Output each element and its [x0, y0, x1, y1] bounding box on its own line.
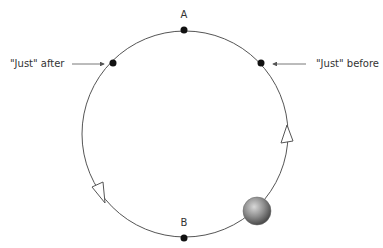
direction-arrow-left-icon: [92, 182, 105, 203]
direction-arrow-right-icon: [281, 125, 293, 143]
point-b-dot: [181, 235, 188, 242]
ball: [243, 197, 271, 225]
just-after-dot: [110, 60, 117, 67]
just-before-dot: [258, 60, 265, 67]
point-b-label: B: [181, 217, 188, 228]
just-before-label: "Just" before: [316, 58, 379, 69]
just-after-label: "Just" after: [10, 58, 65, 69]
point-a-label: A: [181, 9, 188, 20]
point-a-dot: [181, 27, 188, 34]
circular-motion-diagram: A B "Just" after "Just" before: [0, 0, 383, 248]
